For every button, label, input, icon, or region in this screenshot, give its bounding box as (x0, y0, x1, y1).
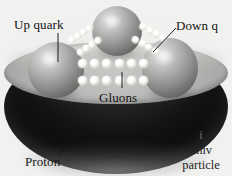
label-gluons: Gluons (99, 91, 137, 105)
gluon-bead-pair (115, 59, 124, 85)
label-down-quark: Down q (176, 19, 218, 33)
gluon-bead (90, 76, 99, 85)
gluon-bead (139, 76, 148, 85)
gluon-bead (90, 59, 99, 68)
gluon-bead-pair (127, 59, 136, 85)
caption-text-block: i univ particle (166, 128, 232, 173)
gluon-bead (115, 59, 124, 68)
gluon-bead (127, 59, 136, 68)
gluon-bead-pair (90, 59, 99, 85)
caption-line-1: i (166, 128, 232, 143)
label-proton: Proton (25, 155, 60, 169)
gluon-bead (102, 59, 111, 68)
gluon-bead-pair (78, 59, 87, 85)
gluon-chain-horizontal (78, 58, 148, 86)
gluon-bead (102, 76, 111, 85)
top-quark-shading (92, 6, 142, 56)
label-up-quark: Up quark (14, 18, 64, 32)
top-quark-sphere (92, 6, 142, 56)
caption-line-2: univ (166, 143, 232, 158)
gluon-bead-pair (102, 59, 111, 85)
caption-line-3: particle (166, 158, 232, 173)
top-quark-specular-highlight (104, 14, 121, 29)
gluon-bead (78, 59, 87, 68)
gluon-bead (139, 59, 148, 68)
proton-illustration: Up quark Down q Gluons Proton i univ par… (0, 0, 232, 176)
gluon-bead (127, 76, 136, 85)
gluon-bead-pair (139, 59, 148, 85)
gluon-bead (115, 76, 124, 85)
gluon-bead (78, 76, 87, 85)
